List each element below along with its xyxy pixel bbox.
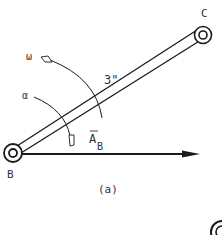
label-link-length: 3" [104,73,118,87]
label-omega: ω [26,51,32,62]
label-acceleration-ab: A B [89,131,103,152]
label-alpha: α [22,90,28,101]
link-bc [17,30,201,153]
figure-caption: (a) [98,183,118,196]
omega-arc-arrow [41,56,102,118]
partial-pivot-next-figure [211,221,222,235]
label-acceleration-subscript: B [97,141,103,152]
label-point-b: B [7,168,14,181]
mechanism-diagram: C B 3" ω α A B (a) [0,0,222,235]
label-point-c: C [201,7,208,20]
label-acceleration-symbol: A [89,132,97,146]
acceleration-vector-ab [22,151,200,158]
pivot-b [4,144,22,162]
pivot-c [195,27,212,44]
